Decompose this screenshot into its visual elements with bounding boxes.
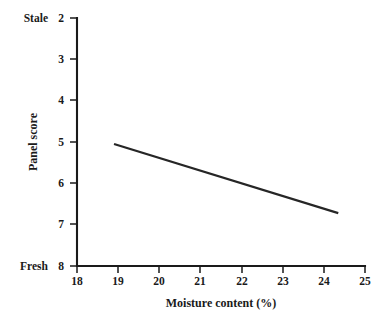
x-tick-label: 19	[112, 275, 124, 287]
trend-line	[114, 144, 338, 213]
y-tick-label: 7	[58, 218, 64, 230]
y-tick-label: 6	[58, 177, 64, 189]
y-axis-anchor-stale: Stale	[24, 12, 48, 24]
chart-axes	[77, 18, 365, 266]
y-axis-title: Panel score	[26, 112, 40, 171]
x-axis-title: Moisture content (%)	[166, 296, 276, 310]
x-tick-label: 21	[194, 275, 206, 287]
x-tick-label: 22	[236, 275, 248, 287]
chart-container: 2 3 4 5 6 7 8 18 19 20 21 22 23 24 25 St…	[0, 0, 386, 326]
y-tick-label: 3	[58, 53, 64, 65]
y-axis-anchor-fresh: Fresh	[20, 260, 49, 272]
x-tick-label: 25	[359, 275, 371, 287]
y-tick-label: 8	[58, 260, 64, 272]
panel-score-line-chart: 2 3 4 5 6 7 8 18 19 20 21 22 23 24 25 St…	[0, 0, 386, 326]
y-tick-label: 4	[58, 94, 64, 106]
x-tick-label: 24	[318, 275, 330, 287]
y-axis-tick-labels: 2 3 4 5 6 7 8	[58, 12, 64, 272]
x-axis-tick-labels: 18 19 20 21 22 23 24 25	[71, 275, 371, 287]
x-tick-label: 18	[71, 275, 83, 287]
x-tick-label: 20	[153, 275, 165, 287]
y-tick-label: 5	[58, 136, 64, 148]
y-tick-label: 2	[58, 12, 64, 24]
x-tick-label: 23	[277, 275, 289, 287]
